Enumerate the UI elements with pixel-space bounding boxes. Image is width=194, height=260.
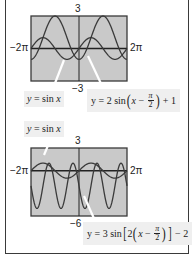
close-paren: ) xyxy=(162,227,166,241)
graph-1-ymin-label: −3 xyxy=(72,84,83,94)
open-paren: ( xyxy=(133,227,137,241)
graph-2-xmax-label: 2π xyxy=(130,166,142,176)
denominator: 2 xyxy=(149,101,153,109)
minus: − xyxy=(136,95,147,107)
open-paren: ( xyxy=(127,94,131,108)
graph-1-label-sin: y = sin x xyxy=(24,91,64,107)
var-x: x xyxy=(56,123,60,135)
graph-2-label-sin: y = sin x xyxy=(24,121,64,137)
eq-prefix: y = 2 sin xyxy=(91,95,126,107)
minus: − xyxy=(143,228,154,240)
eq-text: = sin xyxy=(31,123,56,135)
denominator: 2 xyxy=(155,234,159,242)
graph-2-ymin-label: −6 xyxy=(70,219,81,229)
eq-suffix: − 2 xyxy=(173,228,189,240)
fraction-pi-over-2: π2 xyxy=(154,225,160,242)
eq-suffix: + 1 xyxy=(160,95,176,107)
eq-text: = sin xyxy=(31,93,56,105)
close-bracket: ] xyxy=(168,227,171,241)
graph-2-ymax-label: 3 xyxy=(75,136,81,146)
var-x: x xyxy=(56,93,60,105)
close-paren: ) xyxy=(155,94,159,108)
graph-2-xmin-label: −2π xyxy=(10,166,28,176)
graph-2 xyxy=(31,136,127,223)
graph-1-label-transformed: y = 2 sin ( x − π2 ) + 1 xyxy=(87,89,180,112)
coefficient: 2 xyxy=(127,228,132,240)
graph-1-xmin-label: −2π xyxy=(10,43,28,53)
graph-1-xmax-label: 2π xyxy=(130,43,142,53)
graph-1-ymax-label: 3 xyxy=(75,4,81,14)
eq-prefix: y = 3 sin xyxy=(87,228,122,240)
fraction-pi-over-2: π2 xyxy=(148,92,154,109)
graph-1 xyxy=(31,16,127,91)
graph-2-label-transformed: y = 3 sin [ 2 ( x − π2 ) ] − 2 xyxy=(83,222,192,245)
open-bracket: [ xyxy=(123,227,126,241)
